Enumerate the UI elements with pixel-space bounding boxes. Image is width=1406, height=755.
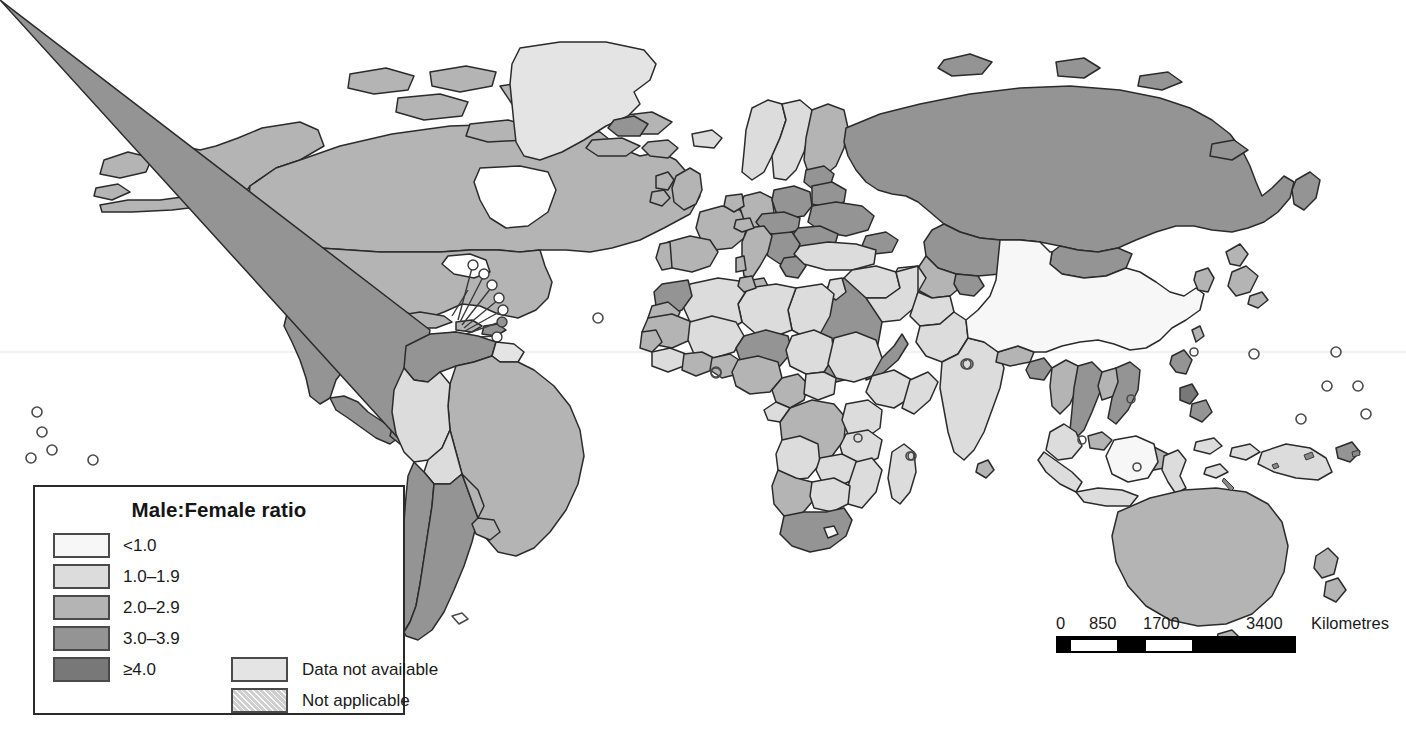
legend-swatch-data-not-available [231,657,288,682]
map-scale-bar: 0 850 1700 3400 Kilometres [1056,614,1356,653]
legend-item-not-applicable[interactable]: Not applicable [231,685,438,716]
region-asia [940,240,1360,506]
legend-class-list: <1.0 1.0–1.9 2.0–2.9 3.0–3.9 ≥4.0 [35,530,403,685]
scale-tick-3400: 3400 [1246,614,1283,633]
scale-bar-segment-1 [1071,640,1117,651]
legend-swatch-gte-4 [53,657,110,682]
legend-label-1-0-1-9: 1.0–1.9 [123,567,180,587]
region-russia-central-asia [844,54,1320,298]
scale-unit-label: Kilometres [1311,614,1389,633]
legend-item-2-0-2-9[interactable]: 2.0–2.9 [53,592,403,623]
legend-title: Male:Female ratio [35,498,403,522]
scale-bar-track [1056,636,1296,653]
legend-label-gte-4: ≥4.0 [123,660,156,680]
legend-swatch-1-0-1-9 [53,564,110,589]
legend-swatch-2-0-2-9 [53,595,110,620]
scale-tick-850: 850 [1089,614,1117,633]
map-legend: Male:Female ratio <1.0 1.0–1.9 2.0–2.9 3… [33,485,405,715]
legend-swatch-not-applicable [231,688,288,713]
legend-label-data-not-available: Data not available [302,660,438,680]
legend-item-data-not-available[interactable]: Data not available [231,654,438,685]
legend-swatch-3-0-3-9 [53,626,110,651]
scale-bar-segment-2 [1146,640,1192,651]
legend-label-3-0-3-9: 3.0–3.9 [123,629,180,649]
legend-item-lt-1[interactable]: <1.0 [53,530,403,561]
world-map: .c{stroke:#2b2b2b;stroke-width:1.5;strok… [0,0,1406,755]
legend-label-not-applicable: Not applicable [302,691,410,711]
legend-item-3-0-3-9[interactable]: 3.0–3.9 [53,623,403,654]
legend-label-lt-1: <1.0 [123,536,157,556]
legend-label-2-0-2-9: 2.0–2.9 [123,598,180,618]
scale-bar-labels: 0 850 1700 3400 Kilometres [1056,614,1356,636]
scale-tick-1700: 1700 [1143,614,1180,633]
legend-extra-list: Data not available Not applicable [231,654,438,716]
scale-tick-0: 0 [1056,614,1065,633]
legend-item-1-0-1-9[interactable]: 1.0–1.9 [53,561,403,592]
legend-swatch-lt-1 [53,533,110,558]
